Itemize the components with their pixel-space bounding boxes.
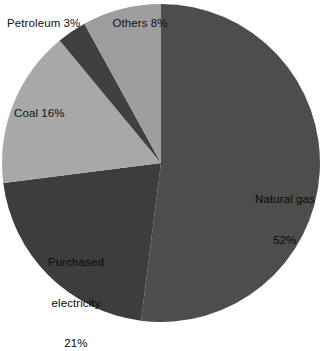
pie-label-others: Others 8%	[97, 17, 183, 31]
pie-slice-natural-gas[interactable]	[141, 4, 320, 322]
pie-label-purchased-electricity-value: 21%	[28, 337, 124, 351]
pie-label-purchased-electricity-line1: Purchased	[28, 256, 124, 270]
pie-label-natural-gas-value: 52%	[247, 234, 323, 248]
pie-label-natural-gas-name: Natural gas	[247, 193, 323, 207]
pie-label-purchased-electricity-line2: electricity	[28, 297, 124, 311]
pie-label-petroleum: Petroleum 3%	[7, 17, 111, 31]
pie-label-purchased-electricity: Purchased electricity 21%	[28, 229, 124, 351]
pie-label-natural-gas: Natural gas 52%	[247, 166, 323, 274]
pie-label-coal: Coal 16%	[14, 107, 92, 121]
